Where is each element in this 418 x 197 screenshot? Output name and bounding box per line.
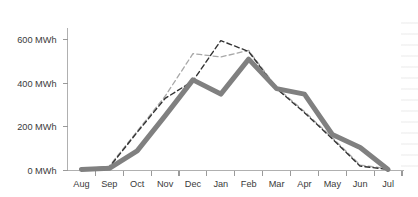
x-tick-label-may: May	[324, 179, 342, 189]
x-axis: AugSepOctNovDecJanFebMarAprMayJunJul	[68, 171, 405, 189]
y-tick-label-0: 0 MWh	[27, 166, 56, 176]
x-tick-label-apr: Apr	[297, 179, 311, 189]
y-tick-labels: 0 MWh200 MWh400 MWh600 MWh	[17, 35, 56, 176]
y-tick-label-200: 200 MWh	[17, 122, 56, 132]
series-line-dark-dashed-series	[81, 41, 388, 170]
x-tick-label-aug: Aug	[73, 179, 89, 189]
series-line-light-dashed-series	[81, 50, 388, 169]
x-tick-label-feb: Feb	[241, 179, 257, 189]
x-tick-label-mar: Mar	[269, 179, 285, 189]
x-tick-label-nov: Nov	[157, 179, 174, 189]
x-tick-label-jul: Jul	[382, 179, 394, 189]
y-axis: 0 MWh200 MWh400 MWh600 MWh	[17, 28, 68, 176]
x-tick-label-sep: Sep	[101, 179, 117, 189]
chart-plot-area: 0 MWh200 MWh400 MWh600 MWh AugSepOctNovD…	[0, 0, 418, 197]
x-tick-marks	[95, 171, 402, 176]
y-tick-label-600: 600 MWh	[17, 35, 56, 45]
x-tick-labels: AugSepOctNovDecJanFebMarAprMayJunJul	[73, 179, 394, 189]
chart-series-group	[81, 41, 388, 170]
x-tick-label-oct: Oct	[130, 179, 145, 189]
x-tick-label-jan: Jan	[213, 179, 228, 189]
y-tick-label-400: 400 MWh	[17, 79, 56, 89]
series-line-thick-solid-series	[81, 59, 388, 169]
line-chart: 0 MWh200 MWh400 MWh600 MWh AugSepOctNovD…	[0, 0, 418, 197]
x-tick-label-dec: Dec	[185, 179, 202, 189]
x-tick-label-jun: Jun	[353, 179, 368, 189]
